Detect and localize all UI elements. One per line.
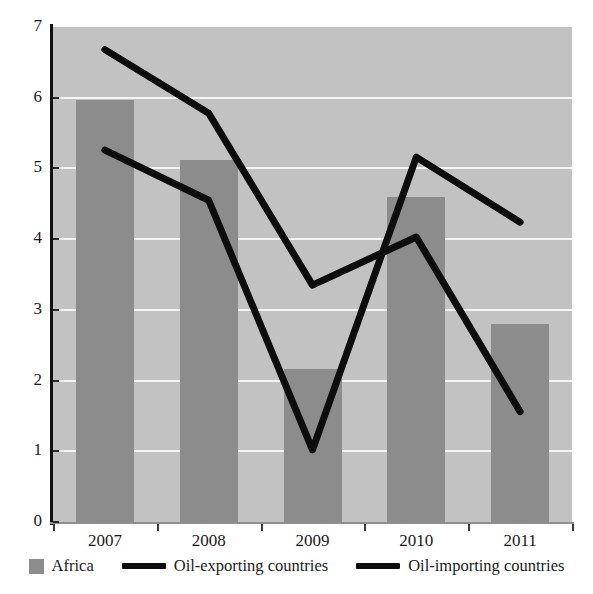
bar <box>284 369 342 522</box>
x-axis-tick <box>53 524 55 531</box>
y-axis-tick <box>53 309 59 311</box>
legend-item[interactable]: Oil-importing countries <box>356 556 564 576</box>
x-axis-tick <box>364 524 366 531</box>
chart-container: 76543210 20072008200920102011 AfricaOil-… <box>0 0 593 594</box>
x-axis-tick <box>261 524 263 531</box>
chart-legend: AfricaOil-exporting countriesOil-importi… <box>0 556 593 576</box>
chart-title <box>0 0 593 3</box>
legend-item[interactable]: Oil-exporting countries <box>122 556 328 576</box>
bar <box>180 160 238 522</box>
x-axis-tick <box>468 524 470 531</box>
x-axis-tick-label: 2010 <box>361 531 471 551</box>
bar <box>76 100 134 522</box>
legend-line-swatch-icon <box>122 563 166 569</box>
x-axis-tick-label: 2007 <box>50 531 160 551</box>
y-axis-tick-label: 1 <box>6 440 42 460</box>
bar <box>491 324 549 522</box>
x-axis-line <box>50 522 574 524</box>
y-axis-tick-label: 2 <box>6 370 42 390</box>
x-axis-tick <box>157 524 159 531</box>
y-axis-tick-label: 0 <box>6 511 42 531</box>
y-axis-tick-label: 3 <box>6 299 42 319</box>
y-axis-tick-label: 5 <box>6 157 42 177</box>
y-axis-tick-label: 6 <box>6 87 42 107</box>
y-axis-tick <box>53 450 59 452</box>
y-axis-tick <box>53 380 59 382</box>
legend-square-swatch-icon <box>29 559 44 574</box>
legend-item-label: Oil-importing countries <box>408 556 564 576</box>
legend-item[interactable]: Africa <box>29 556 94 576</box>
bar <box>387 197 445 522</box>
y-axis-tick <box>53 238 59 240</box>
y-axis-tick <box>53 521 59 523</box>
x-axis-tick <box>572 524 574 531</box>
legend-line-swatch-icon <box>356 563 400 569</box>
y-axis-tick-label: 7 <box>6 16 42 36</box>
legend-item-label: Oil-exporting countries <box>174 556 328 576</box>
legend-item-label: Africa <box>52 556 94 576</box>
gridline-6 <box>53 97 572 99</box>
y-axis-tick-label: 4 <box>6 228 42 248</box>
y-axis-tick <box>53 167 59 169</box>
x-axis-tick-label: 2009 <box>258 531 368 551</box>
x-axis-tick-label: 2008 <box>154 531 264 551</box>
x-axis-tick-label: 2011 <box>465 531 575 551</box>
y-axis-tick <box>53 97 59 99</box>
